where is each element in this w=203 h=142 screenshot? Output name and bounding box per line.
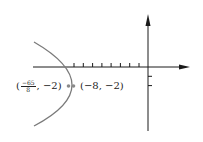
y-axis-ticks [148, 76, 152, 85]
vertex-label: (−8, −2) [80, 81, 124, 91]
x-axis-ticks [74, 63, 139, 67]
focus-point [67, 84, 71, 88]
focus-label-open: ( [16, 80, 20, 91]
focus-label-rest: , −2) [37, 80, 62, 91]
focus-label-denominator: 8 [21, 87, 36, 93]
x-axis-arrow-icon [179, 65, 190, 70]
coordinate-plane [0, 0, 203, 142]
vertex-point [72, 84, 76, 88]
y-axis-arrow-icon [146, 14, 151, 26]
focus-label: (−658, −2) [16, 80, 62, 93]
focus-label-fraction: −658 [21, 80, 36, 93]
